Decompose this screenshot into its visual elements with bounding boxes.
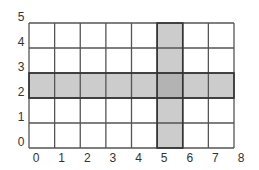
x-axis-label: 8: [238, 151, 245, 165]
x-axis-labels: 012345678: [33, 151, 245, 165]
y-axis-label: 0: [18, 135, 25, 149]
intersection-cell: [157, 73, 183, 98]
y-axis-label: 4: [18, 35, 25, 49]
y-axis-labels: 012345: [18, 10, 25, 149]
y-axis-label: 1: [18, 110, 25, 124]
x-axis-label: 4: [135, 151, 142, 165]
y-axis-label: 2: [18, 85, 25, 99]
y-axis-label: 5: [18, 10, 25, 24]
y-axis-label: 3: [18, 60, 25, 74]
x-axis-label: 6: [186, 151, 193, 165]
grid-canvas: 012345678 012345: [0, 0, 259, 170]
x-axis-label: 5: [161, 151, 168, 165]
grid-diagram: 012345678 012345: [0, 0, 259, 170]
x-axis-label: 3: [110, 151, 117, 165]
x-axis-label: 2: [84, 151, 91, 165]
x-axis-label: 7: [212, 151, 219, 165]
x-axis-label: 0: [33, 151, 40, 165]
x-axis-label: 1: [58, 151, 65, 165]
